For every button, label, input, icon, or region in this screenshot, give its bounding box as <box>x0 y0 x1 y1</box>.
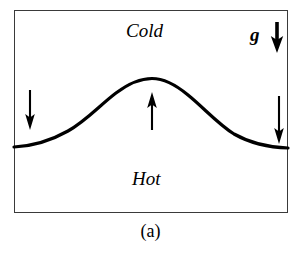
figure-caption: (a) <box>0 222 301 240</box>
cold-region-label: Cold <box>126 21 163 40</box>
gravity-label: g <box>250 25 260 44</box>
hot-region-label: Hot <box>132 169 161 188</box>
figure-container: Cold Hot g (a) <box>0 0 301 257</box>
